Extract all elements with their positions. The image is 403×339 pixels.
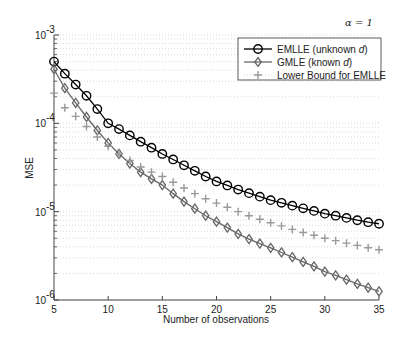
plus-marker bbox=[364, 244, 372, 252]
plus-marker bbox=[148, 168, 156, 176]
y-tick-label: 10 bbox=[35, 118, 47, 129]
x-tick-label: 10 bbox=[103, 304, 115, 315]
plus-marker bbox=[288, 225, 296, 233]
plus-marker bbox=[72, 112, 80, 120]
alpha-annotation: α = 1 bbox=[345, 17, 373, 28]
y-tick-label: 10 bbox=[35, 295, 47, 306]
plus-marker bbox=[191, 190, 199, 198]
plus-marker bbox=[256, 215, 264, 223]
plus-marker bbox=[61, 104, 69, 112]
legend-label: Lower Bound for EMLLE bbox=[277, 70, 386, 81]
y-tick-exponent: -6 bbox=[46, 289, 55, 300]
x-tick-label: 35 bbox=[373, 304, 385, 315]
series-diamond bbox=[51, 65, 382, 296]
data-series bbox=[50, 57, 383, 296]
mse-chart: 5101520253035 10-610-510-410-3 MSE Numbe… bbox=[0, 0, 403, 339]
y-tick-label: 10 bbox=[35, 30, 47, 41]
plus-marker bbox=[83, 123, 91, 131]
plus-marker bbox=[310, 231, 318, 239]
plus-marker bbox=[321, 234, 329, 242]
x-tick-label: 5 bbox=[51, 304, 57, 315]
plus-marker bbox=[375, 246, 383, 254]
plus-marker bbox=[343, 239, 351, 247]
plus-marker bbox=[169, 178, 177, 186]
series-plus bbox=[50, 89, 383, 254]
y-tick-exponent: -4 bbox=[46, 112, 55, 123]
plus-marker bbox=[332, 237, 340, 245]
plus-marker bbox=[50, 89, 58, 97]
plus-marker bbox=[234, 208, 242, 216]
y-tick-label: 10 bbox=[35, 207, 47, 218]
legend-label: GMLE (known d) bbox=[277, 57, 352, 68]
plus-marker bbox=[245, 212, 253, 220]
legend: EMLLE (unknown d)GMLE (known d)Lower Bou… bbox=[238, 38, 386, 81]
y-tick-exponent: -3 bbox=[46, 24, 55, 35]
plus-marker bbox=[223, 203, 231, 211]
plus-marker bbox=[213, 199, 221, 207]
plus-marker bbox=[299, 229, 307, 237]
x-tick-label: 30 bbox=[319, 304, 331, 315]
y-axis-label: MSE bbox=[24, 157, 35, 179]
plus-marker bbox=[278, 222, 286, 230]
legend-label: EMLLE (unknown d) bbox=[277, 44, 368, 55]
plus-marker bbox=[353, 241, 361, 249]
y-tick-exponent: -5 bbox=[46, 201, 55, 212]
plus-marker bbox=[158, 173, 166, 181]
plus-marker bbox=[202, 195, 210, 203]
x-axis-ticks: 5101520253035 bbox=[51, 296, 385, 315]
x-axis-label: Number of observations bbox=[163, 314, 269, 325]
